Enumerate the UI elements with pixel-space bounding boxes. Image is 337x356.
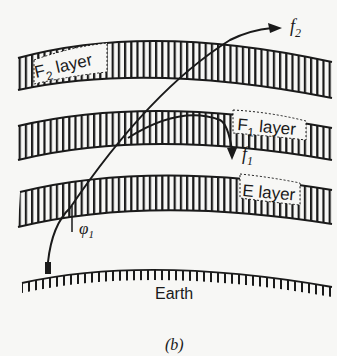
f2-layer: F2 layer <box>0 20 337 110</box>
transmitter-icon <box>45 262 51 274</box>
earth-label: Earth <box>155 285 193 302</box>
f1-layer: F1 layer <box>0 90 337 170</box>
e-layer: E layer <box>0 155 337 235</box>
arrow-f1-icon <box>227 148 237 160</box>
arrow-f2-icon <box>268 23 282 33</box>
ray-f2-label: f2 <box>290 16 301 40</box>
figure-caption: (b) <box>165 336 184 354</box>
ionosphere-diagram: F2 layer F1 layer E layer Earth f2 f1 <box>0 0 337 356</box>
angle-label: φ1 <box>79 219 94 240</box>
